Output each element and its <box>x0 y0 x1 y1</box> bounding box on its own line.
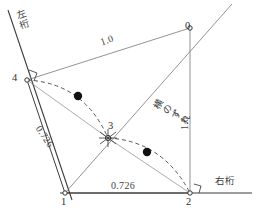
node-label-1: 1 <box>61 197 67 208</box>
node-label-3: 3 <box>108 121 114 132</box>
dimension-label-bottom: 0.726 <box>111 181 135 191</box>
axis-label-right-girder: 右桁 <box>215 176 236 186</box>
node-marker-1[interactable] <box>63 191 67 195</box>
node-label-0: 0 <box>185 21 191 32</box>
diagonal-axis <box>65 4 232 193</box>
node-label-2: 2 <box>186 197 192 208</box>
node-marker-4[interactable] <box>25 78 29 82</box>
deflection-point-upper[interactable] <box>74 92 82 100</box>
node-label-4: 4 <box>12 73 18 84</box>
figure-canvas: 0 1 2 3 4 1.0 1.0 0.726 0.726 左桁 右桁 横のずれ <box>0 0 260 213</box>
angle-tick-node-2 <box>194 184 201 193</box>
node-3-starburst <box>99 129 117 147</box>
deflection-point-lower[interactable] <box>143 148 151 156</box>
node-marker-2[interactable] <box>188 191 192 195</box>
